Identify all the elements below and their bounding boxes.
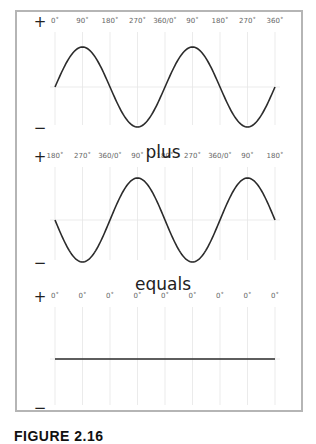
phase-label: 0˚	[271, 291, 279, 300]
negative-sign: −	[34, 254, 47, 272]
panel-wave-b: 180˚270˚360/0˚90˚180˚270˚360/0˚90˚180˚+−	[34, 148, 284, 272]
phase-label: 0˚	[79, 291, 87, 300]
phase-label: 0˚	[244, 291, 252, 300]
negative-sign: −	[34, 119, 47, 137]
phase-label: 270˚	[239, 16, 256, 25]
phase-label: 90˚	[241, 151, 253, 160]
phase-label: 90˚	[131, 151, 143, 160]
phase-label: 360/0˚	[208, 151, 232, 160]
phase-label: 90˚	[186, 16, 198, 25]
phase-label: 0˚	[216, 291, 224, 300]
phase-label: 180˚	[267, 151, 284, 160]
phase-label: 270˚	[74, 151, 91, 160]
phase-label: 0˚	[106, 291, 114, 300]
negative-sign: −	[34, 399, 47, 417]
phase-label: 180˚	[102, 16, 119, 25]
positive-sign: +	[34, 13, 47, 31]
phase-label: 270˚	[184, 151, 201, 160]
operator-plus: plus	[145, 142, 180, 162]
phase-label: 180˚	[212, 16, 229, 25]
operator-equals: equals	[135, 274, 191, 294]
phase-label: 270˚	[129, 16, 146, 25]
phase-label: 90˚	[76, 16, 88, 25]
positive-sign: +	[34, 288, 47, 306]
phase-label: 180˚	[47, 151, 64, 160]
phase-label: 360˚	[267, 16, 284, 25]
positive-sign: +	[34, 148, 47, 166]
panel-wave-a: 0˚90˚180˚270˚360/0˚90˚180˚270˚360˚+−	[34, 13, 284, 137]
phase-label: 360/0˚	[153, 16, 177, 25]
phase-label: 0˚	[51, 291, 59, 300]
phase-label: 0˚	[51, 16, 59, 25]
figure-caption: FIGURE 2.16	[14, 428, 104, 444]
panel-wave-sum: 0˚0˚0˚0˚0˚0˚0˚0˚0˚+−	[34, 288, 280, 417]
phase-label: 360/0˚	[98, 151, 122, 160]
